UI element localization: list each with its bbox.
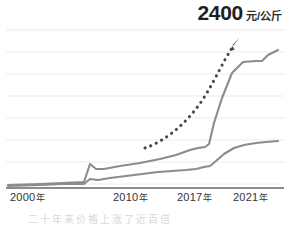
x-tick-2010: 2010年 [113,191,148,204]
chart-canvas [0,28,290,188]
title-unit: 元/公斤 [246,11,282,22]
x-tick-suffix: 年 [259,193,268,203]
series-line-lower [8,141,278,186]
x-tick-2021: 2021年 [233,191,268,204]
caption-text: 二十年来价格上涨了近百倍 [28,214,172,226]
x-tick-suffix: 年 [203,193,212,203]
title-value: 2400 [197,2,243,23]
x-tick-2017: 2017年 [177,191,212,204]
plot-area [0,28,290,188]
trend-arrow-dotted [145,48,232,148]
x-tick-2000: 2000年 [10,191,45,204]
x-tick-year: 2021 [233,191,258,203]
x-axis-labels: 2000年 2010年 2017年 2021年 [0,191,290,209]
x-tick-year: 2000 [10,191,35,203]
x-tick-suffix: 年 [139,193,148,203]
chart-title: 2400 元/公斤 [197,2,282,23]
x-tick-suffix: 年 [36,193,45,203]
x-tick-year: 2010 [113,191,138,203]
x-tick-year: 2017 [177,191,202,203]
gridlines [6,30,284,184]
caption-strip: 二十年来价格上涨了近百倍 [0,214,290,228]
x-axis-line [6,187,284,189]
